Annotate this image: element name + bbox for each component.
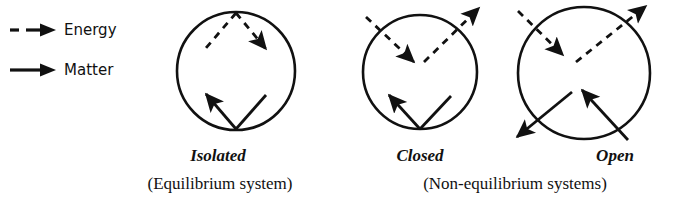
caption-non-equilibrium: (Non-equilibrium systems) [370, 174, 660, 194]
diagram-root: Energy Matter [0, 0, 676, 205]
open-energy-arrow-out [576, 6, 646, 62]
isolated-boundary [177, 12, 295, 130]
system-open [517, 6, 650, 140]
system-label-closed: Closed [360, 146, 480, 166]
open-matter-arrow-in [582, 90, 628, 140]
system-label-isolated: Isolated [152, 146, 284, 166]
closed-matter-arrow-out [420, 96, 451, 129]
caption-equilibrium: (Equilibrium system) [130, 174, 310, 194]
system-label-open: Open [560, 146, 670, 166]
closed-boundary [363, 15, 477, 129]
open-energy-arrow-in [518, 11, 563, 55]
system-closed [363, 8, 479, 129]
system-isolated [177, 12, 295, 130]
open-matter-arrow-out [517, 92, 572, 137]
